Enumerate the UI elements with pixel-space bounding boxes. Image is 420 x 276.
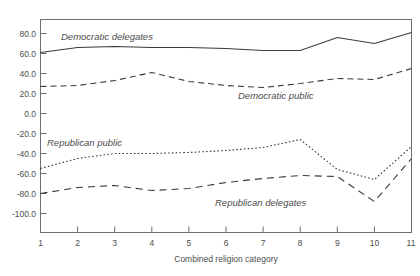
x-axis-tick-labels: 1 2 3 4 5 6 7 8 9 10 11 (38, 238, 416, 248)
y-tick-label: -60.0 (17, 169, 37, 179)
line-chart: 80.0 60.0 40.0 20.0 0.0 -20.0 -40.0 -60.… (0, 0, 420, 276)
y-tick-label: -100.0 (12, 209, 36, 219)
y-tick-label: 80.0 (19, 29, 36, 39)
x-tick-label: 2 (75, 238, 80, 248)
x-axis-title: Combined religion category (174, 254, 278, 264)
x-tick-label: 11 (407, 238, 416, 248)
x-tick-label: 4 (149, 238, 154, 248)
y-tick-label: 40.0 (19, 69, 36, 79)
x-tick-label: 3 (112, 238, 117, 248)
y-tick-label: 0.0 (24, 109, 36, 119)
chart-figure: 80.0 60.0 40.0 20.0 0.0 -20.0 -40.0 -60.… (0, 0, 420, 276)
x-tick-label: 6 (224, 238, 229, 248)
x-tick-label: 7 (261, 238, 266, 248)
x-tick-label: 1 (38, 238, 43, 248)
x-tick-label: 9 (335, 238, 340, 248)
y-tick-label: -40.0 (17, 149, 37, 159)
series-label-democratic-delegates: Democratic delegates (61, 31, 153, 42)
y-tick-marks (41, 34, 47, 214)
series-line-democratic-public (41, 69, 412, 88)
x-tick-label: 10 (370, 238, 380, 248)
series-label-republican-delegates: Republican delegates (215, 197, 307, 208)
y-tick-label: -20.0 (17, 129, 37, 139)
series-label-democratic-public: Democratic public (238, 90, 314, 101)
y-tick-label: -80.0 (17, 189, 37, 199)
y-tick-label: 60.0 (19, 49, 36, 59)
series-label-republican-public: Republican public (47, 137, 122, 148)
x-tick-label: 5 (187, 238, 192, 248)
series-line-republican-delegates (41, 159, 412, 202)
y-tick-label: 20.0 (19, 89, 36, 99)
x-tick-marks (41, 227, 412, 233)
x-tick-label: 8 (298, 238, 303, 248)
y-axis-tick-labels: 80.0 60.0 40.0 20.0 0.0 -20.0 -40.0 -60.… (12, 29, 36, 219)
